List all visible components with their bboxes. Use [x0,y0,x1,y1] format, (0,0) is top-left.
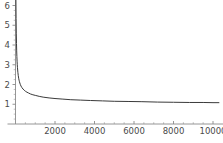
y-tick-label: 1 [5,99,10,109]
x-tick-label: 2000 [44,126,66,136]
y-tick-label: 4 [5,40,10,50]
x-tick-label: 4000 [84,126,106,136]
y-tick-label: 3 [5,60,10,70]
y-tick-label: 6 [5,1,10,11]
x-axis-tick-labels: 200040006000800010000 [44,126,223,136]
y-tick-label: 2 [5,80,10,90]
x-tick-label: 10000 [199,126,223,136]
y-axis-tick-labels: 123456 [5,1,10,110]
chart-canvas: 123456 200040006000800010000 [0,0,223,143]
y-tick-label: 5 [5,20,10,30]
x-tick-label: 6000 [123,126,145,136]
data-series-curve [16,0,219,103]
chart-plot-area: 123456 200040006000800010000 [0,0,223,143]
x-tick-label: 8000 [163,126,185,136]
